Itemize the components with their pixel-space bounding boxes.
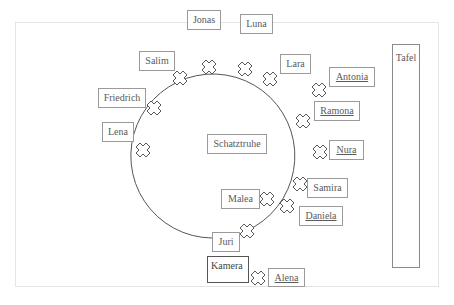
seat-marker-lena bbox=[136, 143, 150, 157]
label-daniela: Daniela bbox=[299, 206, 343, 226]
label-nura: Nura bbox=[329, 140, 364, 160]
seat-marker-alena bbox=[251, 271, 265, 285]
board-tafel: Tafel bbox=[392, 44, 420, 268]
seat-marker-salim bbox=[173, 71, 187, 85]
seat-marker-lara bbox=[263, 72, 277, 86]
seat-marker-antonia bbox=[312, 83, 326, 97]
label-malea: Malea bbox=[221, 189, 260, 209]
label-samira: Samira bbox=[307, 178, 348, 198]
seat-marker-luna bbox=[238, 62, 252, 76]
seat-marker-malea bbox=[260, 192, 274, 206]
label-juri: Juri bbox=[212, 232, 240, 252]
seat-marker-samira bbox=[293, 177, 307, 191]
seat-marker-jonas bbox=[202, 60, 216, 74]
label-kamera: Kamera bbox=[207, 256, 249, 283]
label-ramona: Ramona bbox=[314, 101, 360, 121]
label-antonia: Antonia bbox=[329, 67, 375, 87]
seat-marker-nura bbox=[313, 145, 327, 159]
label-salim: Salim bbox=[139, 51, 175, 71]
seat-marker-juri bbox=[240, 224, 254, 238]
seat-marker-ramona bbox=[296, 114, 310, 128]
label-jonas: Jonas bbox=[187, 10, 221, 30]
label-luna: Luna bbox=[240, 14, 273, 34]
label-schatztruhe: Schatztruhe bbox=[207, 134, 267, 154]
label-friedrich: Friedrich bbox=[98, 88, 146, 108]
label-lena: Lena bbox=[102, 122, 134, 142]
seating-circle bbox=[131, 74, 295, 238]
label-lara: Lara bbox=[280, 54, 311, 74]
label-alena: Alena bbox=[268, 268, 305, 287]
seat-marker-daniela bbox=[280, 199, 294, 213]
seat-marker-friedrich bbox=[147, 101, 161, 115]
